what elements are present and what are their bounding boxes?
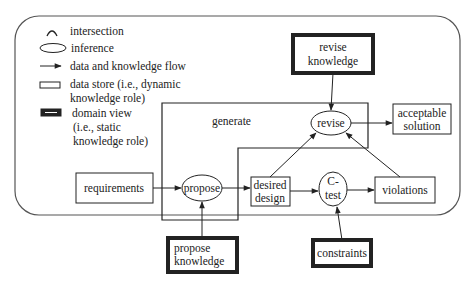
legend-domain-view-2: (i.e., static	[73, 121, 121, 134]
generate-label: generate	[212, 115, 251, 128]
flow-reviseknowledge-revise	[331, 73, 333, 110]
constraints-label: constraints	[317, 247, 367, 259]
acceptable-solution-label-1: acceptable	[398, 107, 447, 120]
revise-label: revise	[317, 117, 344, 129]
acceptable-solution-label-2: solution	[403, 120, 440, 132]
propose-and-revise-diagram: intersection inference data and knowledg…	[0, 0, 469, 281]
requirements-label: requirements	[84, 182, 145, 195]
propose-knowledge-label-2: knowledge	[174, 255, 224, 268]
legend-intersection: intersection	[70, 25, 124, 37]
ctest-label-2: test	[325, 189, 342, 201]
intersection-icon	[47, 31, 57, 36]
legend-domain-view-3: knowledge role)	[73, 135, 148, 148]
revise-knowledge-label-1: revise	[319, 41, 346, 53]
violations-label: violations	[382, 184, 428, 196]
flow-constraints-ctest	[337, 207, 342, 240]
propose-knowledge-label-1: propose	[174, 242, 210, 255]
legend-data-store-1: data store (i.e., dynamic	[70, 78, 181, 91]
legend-flow: data and knowledge flow	[70, 60, 187, 73]
flow-violations-revise	[346, 133, 400, 177]
legend: intersection inference data and knowledg…	[40, 25, 187, 148]
legend-domain-view-1: domain view	[72, 107, 132, 119]
flow-design-revise	[270, 133, 316, 177]
revise-knowledge-label-2: knowledge	[308, 55, 358, 68]
propose-label: propose	[184, 182, 220, 195]
data-store-icon	[40, 82, 60, 88]
legend-data-store-2: knowledge role)	[70, 92, 145, 105]
legend-inference: inference	[71, 42, 114, 54]
desired-design-label-1: desired	[253, 179, 286, 191]
ctest-label-1: C-	[327, 175, 339, 187]
inference-icon	[40, 44, 66, 53]
desired-design-label-2: design	[255, 192, 285, 205]
